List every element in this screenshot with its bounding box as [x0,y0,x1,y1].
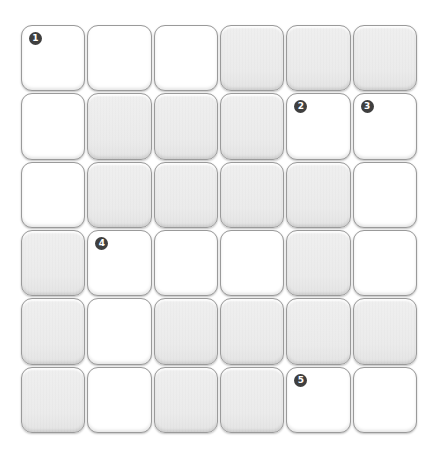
grid-cell[interactable] [87,298,151,364]
blocked-cell [286,25,350,91]
grid-cell[interactable]: 2 [286,93,350,159]
blocked-cell [21,298,85,364]
grid-cell[interactable] [220,230,284,296]
clue-number-badge: 3 [361,100,374,113]
blocked-cell [154,367,218,433]
grid-cell[interactable] [87,367,151,433]
grid-cell[interactable] [154,230,218,296]
grid-cell[interactable] [353,367,417,433]
blocked-cell [286,298,350,364]
clue-number-badge: 1 [29,32,42,45]
blocked-cell [21,230,85,296]
blocked-cell [154,162,218,228]
puzzle-grid: 12345 [20,24,418,434]
grid-cell[interactable] [353,162,417,228]
blocked-cell [154,93,218,159]
blocked-cell [286,162,350,228]
blocked-cell [220,93,284,159]
blocked-cell [220,25,284,91]
blocked-cell [220,367,284,433]
clue-number-badge: 4 [95,237,108,250]
grid-cell[interactable] [87,25,151,91]
blocked-cell [220,162,284,228]
grid-cell[interactable]: 3 [353,93,417,159]
grid-cell[interactable] [154,25,218,91]
blocked-cell [87,162,151,228]
blocked-cell [87,93,151,159]
blocked-cell [286,230,350,296]
blocked-cell [21,367,85,433]
blocked-cell [353,25,417,91]
blocked-cell [220,298,284,364]
clue-number-badge: 2 [294,100,307,113]
grid-cell[interactable] [353,230,417,296]
grid-cell[interactable] [21,162,85,228]
grid-cell[interactable]: 5 [286,367,350,433]
grid-cell[interactable]: 4 [87,230,151,296]
blocked-cell [353,298,417,364]
grid-cell[interactable] [21,93,85,159]
grid-cell[interactable]: 1 [21,25,85,91]
clue-number-badge: 5 [294,374,307,387]
blocked-cell [154,298,218,364]
